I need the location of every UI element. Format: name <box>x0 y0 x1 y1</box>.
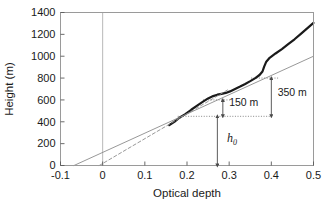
optical-depth-height-chart: 0200400600800100012001400-0.100.10.20.30… <box>0 0 327 204</box>
x-tick-label: 0.3 <box>222 169 237 181</box>
figure-container: 0200400600800100012001400-0.100.10.20.30… <box>0 0 327 204</box>
y-tick-label: 600 <box>37 94 55 106</box>
x-tick-label: 0.2 <box>179 169 194 181</box>
y-tick-label: 200 <box>37 137 55 149</box>
x-tick-label: 0 <box>100 169 106 181</box>
y-axis-title: Height (m) <box>3 62 15 116</box>
x-tick-label: 0.4 <box>264 169 279 181</box>
y-tick-label: 1400 <box>31 6 55 18</box>
annotation-150m-label: 150 m <box>229 96 258 108</box>
x-axis-title: Optical depth <box>153 187 221 199</box>
x-tick-label: 0.1 <box>137 169 152 181</box>
x-tick-label: 0.5 <box>306 169 321 181</box>
annotation-350m-label: 350 m <box>278 86 307 98</box>
x-tick-label: -0.1 <box>51 169 70 181</box>
y-tick-label: 400 <box>37 116 55 128</box>
y-tick-label: 800 <box>37 72 55 84</box>
y-tick-label: 1200 <box>31 28 55 40</box>
y-tick-label: 1000 <box>31 50 55 62</box>
